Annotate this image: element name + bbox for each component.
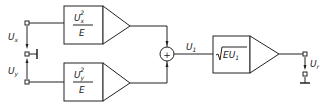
wire-to-summer-top	[130, 26, 167, 47]
ur-arrow-icon	[304, 65, 307, 70]
squarer-x-denominator: E	[79, 28, 85, 38]
summing-junction: +	[160, 47, 174, 61]
terminal-common	[25, 52, 29, 56]
amplifier-triangle-y	[103, 63, 130, 101]
terminal-ux	[25, 21, 29, 25]
label-ux: Ux	[8, 32, 19, 43]
terminal-uy	[25, 80, 29, 84]
wire-to-summer-bottom	[130, 61, 167, 83]
label-u1: U1	[186, 42, 196, 53]
label-uy: Uy	[8, 66, 19, 78]
block-diagram: Ux Uy Ux2 E Uy2 E + U1 EU1	[0, 0, 328, 107]
squarer-y-denominator: E	[79, 85, 85, 95]
ux-arrow-icon	[26, 44, 29, 49]
plus-icon: +	[163, 50, 171, 60]
squarer-y-block: Uy2 E	[64, 63, 130, 101]
input-terminals	[25, 21, 37, 84]
uy-arrow-icon	[26, 58, 29, 63]
terminal-out	[303, 52, 307, 56]
sqrt-block: EU1	[213, 36, 279, 73]
label-ur: Ur	[310, 59, 320, 70]
arrow-icon	[166, 41, 169, 46]
squarer-x-block: Ux2 E	[64, 6, 130, 44]
amplifier-triangle-out	[250, 36, 279, 73]
amplifier-triangle-x	[103, 6, 130, 44]
terminal-ground	[303, 72, 307, 76]
arrow-icon	[166, 62, 169, 67]
